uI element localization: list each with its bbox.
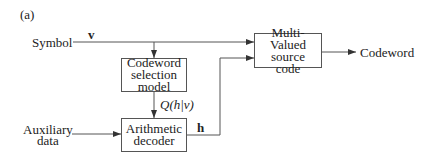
auxiliary-data-label: Auxiliary data — [23, 123, 73, 147]
codeword-selection-model-block: Codeword selection model — [121, 58, 187, 92]
h-signal-label: h — [197, 121, 204, 134]
symbol-variable: v — [88, 28, 95, 41]
multi-valued-source-code-block: Multi-Valued source code — [254, 33, 322, 68]
panel-label: (a) — [20, 8, 34, 21]
arithmetic-decoder-block: Arithmetic decoder — [121, 118, 187, 152]
codeword-output-label: Codeword — [360, 46, 414, 59]
symbol-input-label: Symbol — [32, 36, 72, 49]
q-signal-label: Q(h|v) — [160, 98, 194, 111]
